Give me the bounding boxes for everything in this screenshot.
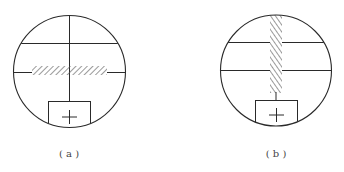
vertical-hatch-fill bbox=[270, 14, 282, 93]
reticle-b-lines bbox=[215, 14, 337, 131]
reticle-a-lines bbox=[10, 15, 130, 132]
caption-b: ( b ) bbox=[266, 148, 287, 159]
horizontal-hatch-bar bbox=[32, 66, 107, 75]
caption-a: ( a ) bbox=[59, 148, 79, 159]
diagram-canvas: ( a ) ( b ) bbox=[0, 0, 344, 172]
figure-a: ( a ) bbox=[10, 15, 130, 159]
figure-b: ( b ) bbox=[215, 14, 337, 159]
